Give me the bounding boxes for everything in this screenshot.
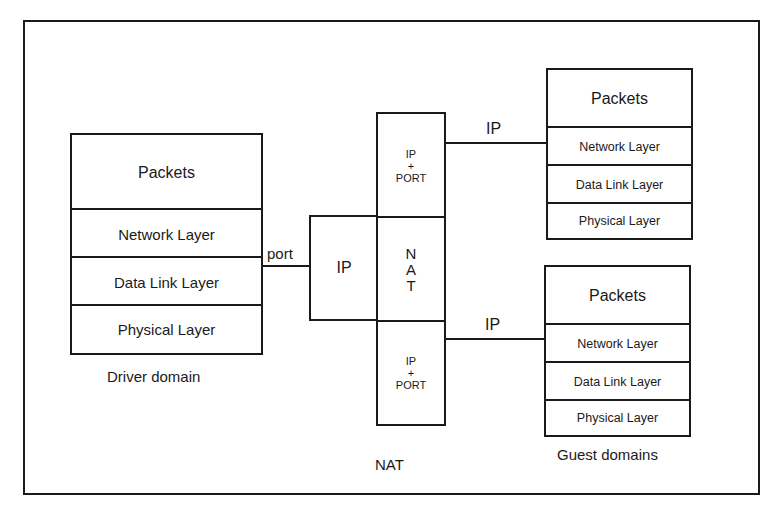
guest1-layer-packets: Packets <box>548 70 691 128</box>
nat-top-ip-port-cell: IP + PORT <box>378 114 444 218</box>
port-connector-label: port <box>267 245 293 262</box>
ip-connector-top-line <box>446 142 547 144</box>
layer-label: Packets <box>589 287 646 305</box>
guest1-layer-network: Network Layer <box>548 126 691 166</box>
driver-domain-stack: Packets Network Layer Data Link Layer Ph… <box>70 133 263 355</box>
layer-label: Physical Layer <box>579 214 660 228</box>
nat-ip-box: IP <box>309 215 379 321</box>
nat-ip-label: IP <box>336 259 351 277</box>
nat-bottom-ip-port-cell: IP + PORT <box>378 320 444 424</box>
driver-domain-label: Driver domain <box>107 368 200 385</box>
ip-connector-top-label: IP <box>486 120 501 138</box>
guest-domain-stack-2: Packets Network Layer Data Link Layer Ph… <box>544 265 691 437</box>
layer-label: Data Link Layer <box>574 375 662 389</box>
layer-label: Packets <box>138 164 195 182</box>
nat-frame-label: NAT <box>375 456 404 473</box>
nat-letter: T <box>406 278 415 294</box>
plus-text: + <box>408 160 414 172</box>
layer-label: Data Link Layer <box>576 178 664 192</box>
nat-center-cell: N A T <box>378 216 444 322</box>
guest2-layer-packets: Packets <box>546 267 689 325</box>
guest1-layer-physical: Physical Layer <box>548 202 691 238</box>
layer-label: Physical Layer <box>577 411 658 425</box>
ip-connector-bottom-label: IP <box>485 316 500 334</box>
guest2-layer-network: Network Layer <box>546 323 689 363</box>
layer-label: Data Link Layer <box>114 274 219 291</box>
layer-label: Packets <box>591 90 648 108</box>
guest-domain-stack-1: Packets Network Layer Data Link Layer Ph… <box>546 68 693 240</box>
nat-letter: N <box>406 246 417 262</box>
port-connector-line <box>262 265 311 267</box>
ip-text: IP <box>406 355 416 367</box>
guest-domains-label: Guest domains <box>557 446 658 463</box>
driver-layer-physical: Physical Layer <box>72 304 261 353</box>
layer-label: Network Layer <box>579 140 660 154</box>
layer-label: Network Layer <box>118 226 215 243</box>
driver-layer-datalink: Data Link Layer <box>72 256 261 306</box>
port-text: PORT <box>396 172 426 184</box>
ip-text: IP <box>406 148 416 160</box>
driver-layer-network: Network Layer <box>72 208 261 258</box>
port-text: PORT <box>396 379 426 391</box>
guest2-layer-datalink: Data Link Layer <box>546 361 689 401</box>
nat-letter: A <box>406 262 416 278</box>
nat-column: IP + PORT N A T IP + PORT <box>376 112 446 426</box>
ip-connector-bottom-line <box>445 338 545 340</box>
plus-text: + <box>408 367 414 379</box>
layer-label: Physical Layer <box>118 321 216 338</box>
layer-label: Network Layer <box>577 337 658 351</box>
guest1-layer-datalink: Data Link Layer <box>548 164 691 204</box>
driver-layer-packets: Packets <box>72 135 261 210</box>
guest2-layer-physical: Physical Layer <box>546 399 689 435</box>
